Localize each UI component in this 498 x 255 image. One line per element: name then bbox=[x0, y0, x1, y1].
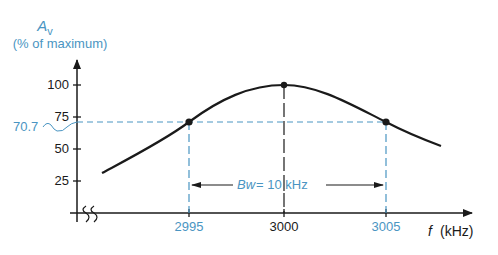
point-3005 bbox=[382, 118, 389, 125]
x-tick-3000: 3000 bbox=[270, 219, 299, 234]
axis-break-icon bbox=[83, 206, 97, 222]
x-axis-units: (kHz) bbox=[440, 223, 473, 239]
x-tick-2995: 2995 bbox=[175, 219, 204, 234]
y-tick-50: 50 bbox=[55, 141, 69, 156]
x-axis-symbol: f bbox=[428, 223, 434, 239]
resonance-curve-chart: 100 75 50 25 2995 3000 3005 Av (% of max… bbox=[0, 0, 498, 255]
y-axis-units: (% of maximum) bbox=[13, 36, 108, 51]
bandwidth-label: Bw= 10 kHz bbox=[237, 177, 308, 192]
y-axis-symbol: Av bbox=[36, 17, 53, 37]
point-2995 bbox=[185, 118, 192, 125]
half-power-label: 70.7 bbox=[13, 119, 38, 134]
x-tick-3005: 3005 bbox=[372, 219, 401, 234]
y-tick-100: 100 bbox=[47, 77, 69, 92]
point-3000-peak bbox=[281, 82, 287, 88]
y-tick-75: 75 bbox=[55, 109, 69, 124]
y-tick-25: 25 bbox=[55, 173, 69, 188]
resonance-curve bbox=[102, 85, 441, 173]
